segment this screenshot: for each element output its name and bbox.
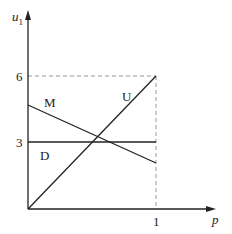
label-M: M	[44, 96, 56, 109]
x-axis-label: p	[212, 213, 219, 226]
chart-canvas	[0, 0, 232, 234]
label-D: D	[40, 149, 49, 162]
y-axis-label: u1	[12, 10, 23, 27]
label-U: U	[122, 90, 131, 103]
y-axis-arrow-icon	[25, 10, 31, 20]
y-tick-6: 6	[16, 70, 23, 83]
x-tick-1: 1	[153, 215, 160, 228]
y-tick-3: 3	[16, 136, 23, 149]
